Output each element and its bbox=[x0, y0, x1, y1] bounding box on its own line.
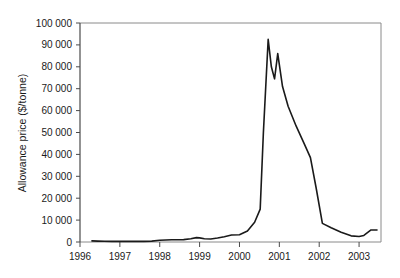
y-tick-label: 0 bbox=[66, 237, 72, 248]
y-tick-label: 50 000 bbox=[41, 127, 72, 138]
plot-frame bbox=[80, 23, 381, 242]
y-tick-label: 30 000 bbox=[41, 171, 72, 182]
x-tick-label: 2001 bbox=[268, 251, 291, 262]
y-tick-label: 20 000 bbox=[41, 193, 72, 204]
x-tick-label: 1997 bbox=[109, 251, 132, 262]
x-axis: 19961997199819992000200120022003 bbox=[69, 242, 371, 262]
y-tick-label: 40 000 bbox=[41, 149, 72, 160]
x-tick-label: 2002 bbox=[308, 251, 331, 262]
y-tick-label: 100 000 bbox=[36, 18, 73, 29]
chart-container: 010 00020 00030 00040 00050 00060 00070 … bbox=[0, 0, 400, 278]
x-tick-label: 1999 bbox=[188, 251, 211, 262]
x-tick-label: 2003 bbox=[348, 251, 371, 262]
y-axis-title: Allowance price ($/tonne) bbox=[16, 74, 28, 192]
y-tick-label: 60 000 bbox=[41, 105, 72, 116]
data-series-group bbox=[92, 39, 377, 241]
y-tick-label: 80 000 bbox=[41, 61, 72, 72]
x-tick-label: 1996 bbox=[69, 251, 92, 262]
y-axis: 010 00020 00030 00040 00050 00060 00070 … bbox=[36, 18, 80, 248]
y-tick-label: 10 000 bbox=[41, 215, 72, 226]
line-chart: 010 00020 00030 00040 00050 00060 00070 … bbox=[0, 0, 400, 278]
x-tick-label: 2000 bbox=[228, 251, 251, 262]
series-line-allowance-price bbox=[92, 39, 377, 241]
y-tick-label: 90 000 bbox=[41, 39, 72, 50]
x-tick-label: 1998 bbox=[149, 251, 172, 262]
y-tick-label: 70 000 bbox=[41, 83, 72, 94]
